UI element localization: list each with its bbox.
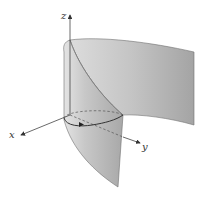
y-axis-label: y: [141, 141, 148, 152]
parabolic-cylinder-diagram: z x y: [0, 0, 209, 198]
z-axis-label: z: [60, 10, 67, 21]
x-axis: [21, 115, 70, 135]
y-axis: [123, 137, 140, 143]
x-axis-label: x: [9, 129, 15, 140]
